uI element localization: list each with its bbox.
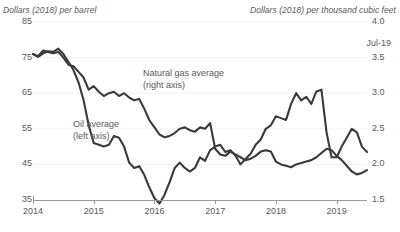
dual-axis-line-chart: Dollars (2018) per barrel Dollars (2018)… — [0, 0, 400, 232]
left-axis-tick-label: 35 — [6, 194, 32, 204]
x-axis-tick-mark — [94, 200, 95, 204]
x-axis-tick-label: 2014 — [11, 206, 55, 216]
series-label-oil: Oil average (left axis) — [73, 119, 119, 142]
left-axis-tick-label: 45 — [6, 158, 32, 168]
x-axis-tick-label: 2016 — [132, 206, 176, 216]
series-label-natural-gas-line2: (right axis) — [143, 80, 224, 92]
x-axis-line — [33, 200, 367, 201]
x-axis-tick-mark — [154, 200, 155, 204]
series-label-oil-line2: (left axis) — [73, 131, 119, 143]
x-axis-tick-mark — [337, 200, 338, 204]
plot-svg — [33, 22, 367, 200]
x-axis-tick-label: 2015 — [72, 206, 116, 216]
left-axis-title: Dollars (2018) per barrel — [3, 5, 96, 15]
left-axis-tick-label: 65 — [6, 87, 32, 97]
x-axis-tick-label: 2019 — [315, 206, 359, 216]
x-axis-tick-mark — [215, 200, 216, 204]
right-axis-tick-label: 4.0 — [372, 16, 398, 26]
gridlines — [33, 22, 367, 164]
series-label-natural-gas: Natural gas average (right axis) — [143, 68, 224, 91]
plot-area — [33, 22, 367, 200]
right-axis-tick-label: 2.5 — [372, 123, 398, 133]
series-label-natural-gas-line1: Natural gas average — [143, 68, 224, 80]
right-axis-tick-label: 3.5 — [372, 52, 398, 62]
right-axis-tick-label: 1.5 — [372, 194, 398, 204]
series-label-oil-line1: Oil average — [73, 119, 119, 131]
x-axis-tick-mark — [33, 200, 34, 204]
x-axis-tick-label: 2017 — [193, 206, 237, 216]
left-axis-tick-label: 85 — [6, 16, 32, 26]
x-axis-tick-label: 2018 — [254, 206, 298, 216]
left-axis-tick-label: 55 — [6, 123, 32, 133]
right-axis-tick-label: 2.0 — [372, 158, 398, 168]
right-axis-title: Dollars (2018) per thousand cubic feet — [250, 5, 396, 15]
left-axis-tick-label: 75 — [6, 52, 32, 62]
right-axis-tick-label: 3.0 — [372, 87, 398, 97]
x-axis-tick-mark — [276, 200, 277, 204]
last-point-annotation: Jul-19 — [366, 38, 391, 48]
